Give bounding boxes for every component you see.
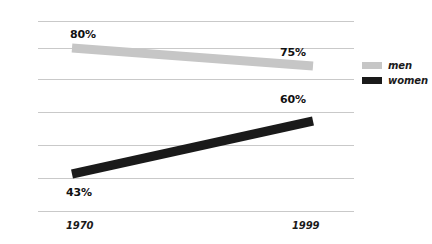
series-line-men — [72, 48, 313, 66]
data-label-men-1970: 80% — [70, 28, 96, 41]
legend-swatch-women-icon — [362, 77, 382, 84]
legend-item-men[interactable]: men — [362, 58, 430, 72]
chart-legend: men women — [362, 58, 430, 88]
gridline — [38, 48, 354, 49]
series-lines — [0, 0, 432, 244]
gridline — [38, 79, 354, 80]
legend-label-men: men — [388, 60, 412, 71]
gridline — [38, 145, 354, 146]
data-label-women-1970: 43% — [66, 186, 92, 199]
legend-swatch-men-icon — [362, 62, 382, 69]
data-label-men-1999: 75% — [280, 46, 306, 59]
x-axis-tick-1999: 1999 — [292, 220, 319, 231]
gridline — [38, 21, 354, 22]
legend-item-women[interactable]: women — [362, 73, 430, 87]
legend-label-women: women — [388, 75, 428, 86]
data-label-women-1999: 60% — [280, 93, 306, 106]
gridline — [38, 178, 354, 179]
gridline — [38, 211, 354, 212]
plot-area: 80% 75% 60% 43% 1970 1999 — [0, 0, 432, 244]
x-axis-tick-1970: 1970 — [66, 220, 93, 231]
series-line-women — [72, 121, 313, 174]
chart-container: 80% 75% 60% 43% 1970 1999 men women — [0, 0, 432, 244]
gridline — [38, 112, 354, 113]
